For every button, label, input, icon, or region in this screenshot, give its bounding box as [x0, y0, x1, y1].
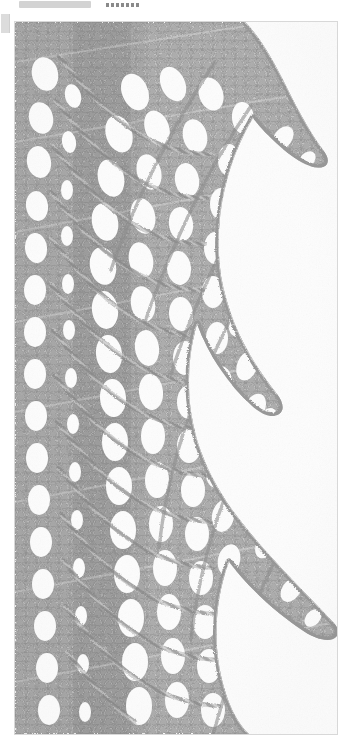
lace-photograph-graphic	[15, 22, 337, 734]
header-dotted-text: .......	[106, 1, 139, 8]
header-dot	[121, 3, 124, 7]
header-dot	[136, 3, 139, 7]
header-dot	[111, 3, 114, 7]
page-root: .......	[0, 0, 350, 752]
left-side-tab[interactable]	[1, 14, 10, 33]
header-placeholder-bar	[19, 1, 91, 8]
header-dot	[116, 3, 119, 7]
photo-frame: Close-up photograph of hand-knitted grey…	[14, 21, 338, 735]
header-dot	[131, 3, 134, 7]
lace-photograph: Close-up photograph of hand-knitted grey…	[15, 22, 337, 734]
header-dot	[126, 3, 129, 7]
header-dot	[106, 3, 109, 7]
